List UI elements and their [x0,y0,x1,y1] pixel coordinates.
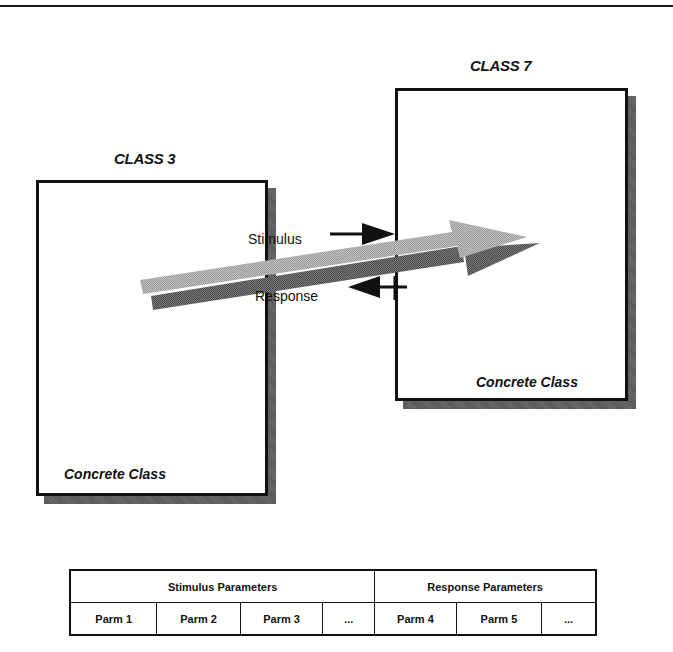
param-cell-1: Parm 1 [70,603,157,636]
param-cell-5: Parm 5 [456,603,541,636]
stimulus-parameters-header: Stimulus Parameters [70,570,375,603]
parameters-table: Stimulus Parameters Response Parameters … [69,569,597,636]
response-arrow-icon [348,276,407,300]
param-cell-4: Parm 4 [375,603,457,636]
stimulus-arrow-icon [330,223,395,245]
response-label: Response [255,288,318,304]
param-cell-stimulus-more: ... [323,603,375,636]
arrows-overlay [0,0,673,652]
response-parameters-header: Response Parameters [375,570,596,603]
param-cell-3: Parm 3 [240,603,323,636]
param-cell-response-more: ... [542,603,596,636]
param-cell-2: Parm 2 [157,603,240,636]
parameters-group-row: Stimulus Parameters Response Parameters [70,570,596,603]
parameters-row: Parm 1 Parm 2 Parm 3 ... Parm 4 Parm 5 .… [70,603,596,636]
stimulus-label: Stimulus [248,231,302,247]
